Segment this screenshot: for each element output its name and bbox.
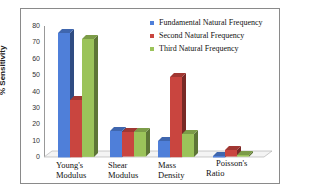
bar <box>237 151 254 158</box>
legend: Fundamental Natural Frequency Second Nat… <box>150 16 263 55</box>
bar <box>182 130 199 158</box>
x-category-label: MassDensity <box>158 160 184 180</box>
x-category-label: Poisson'sRatio <box>206 158 247 178</box>
legend-item-fundamental: Fundamental Natural Frequency <box>150 16 263 29</box>
legend-label: Second Natural Frequency <box>159 31 244 40</box>
legend-item-third: Third Natural Frequency <box>150 42 263 55</box>
legend-swatch-icon <box>150 21 154 25</box>
bar <box>82 35 99 158</box>
x-category-label: Young'sModulus <box>56 160 86 180</box>
bar <box>134 128 151 158</box>
legend-swatch-icon <box>150 34 154 38</box>
legend-label: Fundamental Natural Frequency <box>159 18 263 27</box>
legend-swatch-icon <box>150 47 154 51</box>
x-category-label: ShearModulus <box>108 160 138 180</box>
legend-label: Third Natural Frequency <box>159 44 239 53</box>
legend-item-second: Second Natural Frequency <box>150 29 263 42</box>
